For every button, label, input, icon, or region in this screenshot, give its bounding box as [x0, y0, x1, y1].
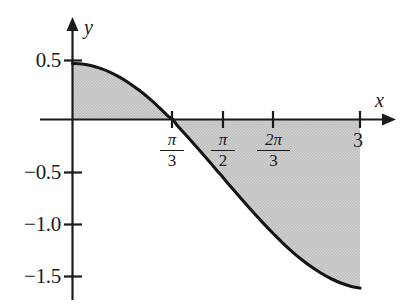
y-axis-label: y [84, 17, 93, 37]
x-tick-label-three: 3 [353, 130, 363, 150]
x-tick-label-pi-over-3: π 3 [160, 131, 184, 170]
y-tick-label-neg-1-5: −1.5 [4, 266, 61, 287]
y-tick-label-neg-1-0: −1.0 [4, 214, 61, 235]
y-axis-arrowhead [67, 17, 79, 31]
y-tick-label-neg-0-5: −0.5 [4, 162, 61, 183]
x-tick-label-two-pi-over-3: 2π 3 [257, 131, 290, 170]
plot-canvas [0, 0, 406, 307]
figure-root: 0.5 −0.5 −1.0 −1.5 y x π 3 π 2 2π 3 3 [0, 0, 406, 307]
fraction-numerator: 2π [257, 131, 290, 149]
fraction-denominator: 2 [211, 152, 235, 170]
shaded-region-positive [73, 64, 173, 120]
x-axis-arrowhead [382, 114, 396, 126]
y-tick-label-0-5: 0.5 [12, 50, 61, 71]
x-axis-label: x [375, 90, 384, 110]
fraction-numerator: π [160, 131, 184, 149]
x-tick-label-pi-over-2: π 2 [211, 131, 235, 170]
fraction-numerator: π [211, 131, 235, 149]
fraction-denominator: 3 [257, 152, 290, 170]
fraction-denominator: 3 [160, 152, 184, 170]
